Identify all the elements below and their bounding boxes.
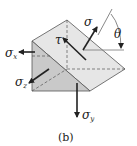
- tau-label: τ: [55, 33, 62, 47]
- figure-caption: (b): [58, 131, 74, 144]
- normal-reference-line: [98, 9, 112, 35]
- sigma-x-label: σx: [5, 46, 17, 61]
- stress-wedge-diagram: σ τ θ σx σz σy (b): [0, 0, 137, 146]
- sigma-y-label: σy: [82, 108, 95, 123]
- theta-label: θ: [114, 27, 122, 41]
- sigma-z-label: σz: [15, 75, 27, 90]
- sigma-label: σ: [84, 15, 93, 29]
